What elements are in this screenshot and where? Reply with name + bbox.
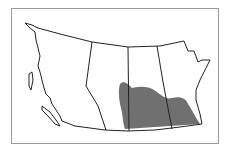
shaded-range-area: [119, 82, 200, 129]
bc-alberta-border: [86, 42, 106, 130]
vancouver-island: [42, 106, 60, 126]
haida-gwaii-island: [29, 72, 33, 90]
western-canada-map: [0, 0, 230, 151]
